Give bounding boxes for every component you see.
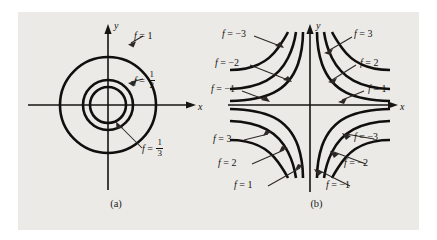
label-lr-f-neg2-operator: =	[349, 157, 355, 168]
x-axis-label-a: x	[198, 101, 202, 112]
leader-ul-f-neg3	[254, 36, 280, 46]
label-lr-f-neg3-symbol: f	[354, 131, 357, 142]
label-ur-f-3-value: 3	[367, 28, 372, 39]
label-ul-f-neg2-value: −2	[228, 57, 239, 68]
label-ul-f-neg3-value: −3	[235, 28, 246, 39]
label-f-1-symbol: f	[134, 30, 137, 41]
label-ur-f-1-value: 1	[381, 83, 386, 94]
hyperbola-ll-f-1	[230, 109, 303, 178]
label-ll-f-1-value: 1	[247, 179, 252, 190]
level-curves-b-lower-left	[230, 109, 303, 178]
label-ul-f-neg1-symbol: f	[211, 83, 214, 94]
y-axis-label-b: y	[316, 20, 320, 31]
label-lr-f-neg1: f = −1	[326, 180, 350, 190]
label-lr-f-neg3-value: −3	[367, 131, 378, 142]
label-f-one-third-fraction: 1 3	[156, 138, 163, 158]
label-ll-f-3-symbol: f	[213, 133, 216, 144]
label-lr-f-neg2-value: −2	[357, 157, 368, 168]
fraction-numerator: 1	[156, 138, 163, 147]
fraction-numerator: 1	[148, 70, 155, 79]
fraction-denominator: 3	[156, 149, 163, 158]
panel-b: y x f = −3 f = −2 f = −1 f = 3 f = 2 f	[214, 12, 419, 230]
label-ur-f-2-operator: =	[365, 57, 371, 68]
label-ul-f-neg2-symbol: f	[215, 57, 218, 68]
label-f-one-half: f = 1 2	[134, 70, 155, 90]
label-ur-f-3-symbol: f	[354, 28, 357, 39]
level-curves-b-upper-left	[230, 32, 303, 101]
label-ll-f-3-value: 3	[226, 133, 231, 144]
label-ll-f-2: f = 2	[218, 158, 236, 168]
label-f-1-operator: =	[139, 30, 145, 41]
label-ur-f-1: f = 1	[368, 84, 386, 94]
hyperbola-lr-f-neg2	[324, 121, 390, 178]
label-lr-f-neg3: f = −3	[354, 132, 378, 142]
label-ur-f-1-symbol: f	[368, 83, 371, 94]
label-f-one-third: f = 1 3	[142, 138, 163, 158]
label-ll-f-1: f = 1	[234, 180, 252, 190]
label-ur-f-2-symbol: f	[360, 57, 363, 68]
axes-a	[28, 30, 190, 190]
leader-ur-f-3	[328, 37, 352, 51]
label-ur-f-1-operator: =	[373, 83, 379, 94]
label-ur-f-2: f = 2	[360, 58, 378, 68]
label-ul-f-neg2: f = −2	[215, 58, 239, 68]
figure-container: y x f = 1 f = 1 2 f = 1 3 (a)	[18, 12, 419, 230]
panel-b-caption: (b)	[214, 198, 419, 209]
y-axis-arrow-a	[104, 24, 111, 34]
label-lr-f-neg1-operator: =	[331, 179, 337, 190]
label-f-1-value: 1	[147, 30, 152, 41]
label-lr-f-neg1-value: −1	[339, 179, 350, 190]
label-f-one-third-operator: =	[147, 143, 153, 154]
label-lr-f-neg2-symbol: f	[344, 157, 347, 168]
label-ll-f-1-symbol: f	[234, 179, 237, 190]
hyperbola-ul-f-neg1	[230, 32, 303, 101]
label-lr-f-neg2: f = −2	[344, 158, 368, 168]
label-ll-f-1-operator: =	[239, 179, 245, 190]
label-ul-f-neg3: f = −3	[222, 29, 246, 39]
hyperbola-ll-f-2	[230, 121, 296, 178]
label-lr-f-neg3-operator: =	[359, 131, 365, 142]
label-ul-f-neg1: f = −1	[211, 84, 235, 94]
label-f-one-third-symbol: f	[142, 143, 145, 154]
label-f-one-half-symbol: f	[134, 75, 137, 86]
hyperbola-ll-f-3	[230, 140, 288, 178]
label-ur-f-3-operator: =	[359, 28, 365, 39]
label-ul-f-neg1-value: −1	[224, 83, 235, 94]
x-axis-label-b: x	[400, 101, 404, 112]
x-axis-arrow-b	[388, 101, 398, 108]
label-f-one-half-fraction: 1 2	[148, 70, 155, 90]
x-axis-arrow-a	[186, 101, 196, 108]
label-ul-f-neg3-operator: =	[227, 28, 233, 39]
label-f-1: f = 1	[134, 31, 152, 41]
label-lr-f-neg1-symbol: f	[326, 179, 329, 190]
fraction-denominator: 2	[148, 81, 155, 90]
label-ll-f-3-operator: =	[218, 133, 224, 144]
label-ll-f-2-symbol: f	[218, 157, 221, 168]
y-axis-arrow-b	[306, 24, 313, 34]
y-axis-label-a: y	[114, 20, 118, 31]
label-ul-f-neg2-operator: =	[220, 57, 226, 68]
label-ul-f-neg1-operator: =	[216, 83, 222, 94]
label-ul-f-neg3-symbol: f	[222, 28, 225, 39]
label-ll-f-2-operator: =	[223, 157, 229, 168]
arrowhead-ur-f-1	[338, 98, 347, 104]
label-ll-f-2-value: 2	[231, 157, 236, 168]
panel-a: y x f = 1 f = 1 2 f = 1 3 (a)	[18, 12, 214, 230]
label-ur-f-3: f = 3	[354, 29, 372, 39]
leader-ur-f-2	[332, 65, 356, 80]
label-f-one-half-operator: =	[139, 75, 145, 86]
label-ur-f-2-value: 2	[373, 57, 378, 68]
panel-a-caption: (a)	[18, 198, 214, 209]
label-ll-f-3: f = 3	[213, 134, 231, 144]
